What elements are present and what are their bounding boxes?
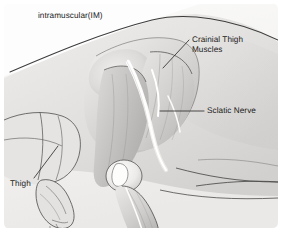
anatomical-figure: intramuscular(IM) Crainial Thigh Muscles… <box>0 0 282 240</box>
label-sciatic-nerve: Sclatic Nerve <box>207 106 256 116</box>
clipped-caption <box>0 232 282 240</box>
label-cranial-thigh-muscles: Crainial Thigh Muscles <box>192 35 243 56</box>
label-thigh: Thigh <box>10 179 31 189</box>
thigh-region-left <box>4 112 80 184</box>
label-intramuscular: intramuscular(IM) <box>38 11 103 21</box>
